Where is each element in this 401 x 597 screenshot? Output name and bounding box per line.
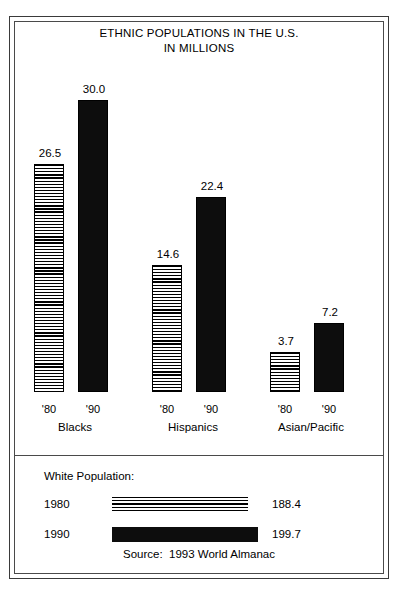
bar-asian-pacific-1990: 7.2 xyxy=(314,323,344,392)
bar-value-asian-pacific-1980: 3.7 xyxy=(263,335,309,347)
white-population-swatch-1990 xyxy=(112,527,258,542)
group-label-blacks: Blacks xyxy=(10,421,140,433)
white-population-value-1980: 188.4 xyxy=(272,498,301,510)
source-note: Source: 1993 World Almanac xyxy=(14,548,384,560)
group-label-hispanics: Hispanics xyxy=(128,421,258,433)
bar-hispanics-1990: 22.4 xyxy=(196,197,226,392)
tick-asian-pacific-1990: '90 xyxy=(314,403,344,415)
white-population-swatch-1980 xyxy=(112,497,248,512)
bar-value-asian-pacific-1990: 7.2 xyxy=(307,306,353,318)
white-population-row-1990: 1990 199.7 xyxy=(44,524,364,546)
chart-title-line-1: ETHNIC POPULATIONS IN THE U.S. xyxy=(20,26,378,41)
white-population-panel: White Population: 1980 188.4 1990 199.7 … xyxy=(14,456,384,574)
plot-area: 26.5 30.0 '80 '90 Blacks 14.6 22.4 '80 '… xyxy=(14,60,384,455)
tick-hispanics-1980: '80 xyxy=(152,403,182,415)
white-population-year-1990: 1990 xyxy=(44,528,70,540)
bar-hispanics-1980: 14.6 xyxy=(152,265,182,392)
bar-group-asian-pacific: 3.7 7.2 '80 '90 Asian/Pacific xyxy=(258,60,388,455)
chart-title: ETHNIC POPULATIONS IN THE U.S. IN MILLIO… xyxy=(20,26,378,56)
white-population-row-1980: 1980 188.4 xyxy=(44,494,364,516)
tick-blacks-1980: '80 xyxy=(34,403,64,415)
chart-page: ETHNIC POPULATIONS IN THE U.S. IN MILLIO… xyxy=(0,0,401,597)
tick-asian-pacific-1980: '80 xyxy=(270,403,300,415)
bar-asian-pacific-1980: 3.7 xyxy=(270,352,300,392)
chart-title-line-2: IN MILLIONS xyxy=(20,41,378,56)
tick-blacks-1990: '90 xyxy=(78,403,108,415)
group-label-asian-pacific: Asian/Pacific xyxy=(246,421,376,433)
bar-value-blacks-1980: 26.5 xyxy=(27,147,73,159)
white-population-value-1990: 199.7 xyxy=(272,528,301,540)
bar-value-hispanics-1980: 14.6 xyxy=(145,248,191,260)
white-population-year-1980: 1980 xyxy=(44,498,70,510)
bar-group-hispanics: 14.6 22.4 '80 '90 Hispanics xyxy=(140,60,270,455)
bar-value-hispanics-1990: 22.4 xyxy=(189,180,235,192)
bar-blacks-1990: 30.0 xyxy=(78,100,108,392)
white-population-title: White Population: xyxy=(44,470,134,482)
bar-blacks-1980: 26.5 xyxy=(34,164,64,392)
tick-hispanics-1990: '90 xyxy=(196,403,226,415)
bar-group-blacks: 26.5 30.0 '80 '90 Blacks xyxy=(22,60,152,455)
bar-value-blacks-1990: 30.0 xyxy=(71,83,117,95)
